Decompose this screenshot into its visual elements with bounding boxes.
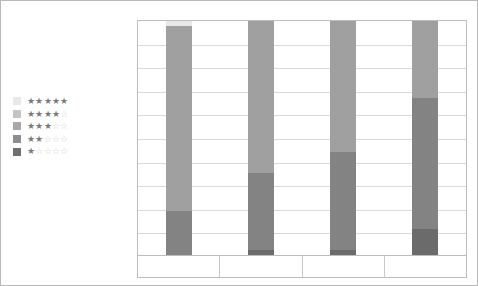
plot-wrapper [104,10,469,279]
stacked-bar[interactable] [166,21,192,255]
legend-item[interactable]: ★☆☆☆☆ [13,145,101,158]
legend-item[interactable]: ★★★☆☆ [13,120,101,133]
legend-swatch-icon [13,97,21,105]
bar-slot [220,21,302,255]
legend-item[interactable]: ★★☆☆☆ [13,133,101,146]
bar-segment [330,250,356,255]
chart-frame: ★★★★★★★★★☆★★★☆☆★★☆☆☆★☆☆☆☆ [0,0,478,286]
bar-segment [412,98,438,229]
legend-swatch-icon [13,110,21,118]
stacked-bar[interactable] [330,21,356,255]
legend-item-label: ★★★★★ [27,97,69,106]
plot-area [137,20,467,256]
legend-item-label: ★☆☆☆☆ [27,147,69,156]
legend-swatch-icon [13,135,21,143]
legend-item[interactable]: ★★★★☆ [13,108,101,121]
bar-segment [166,26,192,211]
chart-legend: ★★★★★★★★★☆★★★☆☆★★☆☆☆★☆☆☆☆ [13,95,101,158]
y-axis-labels [104,10,137,256]
bar-slot [138,21,220,255]
legend-swatch-icon [13,122,21,130]
bar-group [138,21,466,255]
stacked-bar[interactable] [248,21,274,255]
category-label [385,256,466,277]
bar-segment [248,250,274,255]
bar-segment [330,152,356,250]
bar-segment [412,229,438,255]
legend-swatch-icon [13,148,21,156]
bar-segment [330,21,356,152]
category-label [220,256,302,277]
stacked-bar[interactable] [412,21,438,255]
bar-slot [302,21,384,255]
bar-segment [248,21,274,173]
bar-segment [412,21,438,98]
legend-item-label: ★★★★☆ [27,110,69,119]
category-axis [137,256,467,278]
bar-slot [384,21,466,255]
legend-item-label: ★★☆☆☆ [27,135,69,144]
legend-item[interactable]: ★★★★★ [13,95,101,108]
legend-item-label: ★★★☆☆ [27,122,69,131]
category-label [303,256,385,277]
bar-segment [166,211,192,255]
bar-segment [248,173,274,250]
category-label [138,256,220,277]
